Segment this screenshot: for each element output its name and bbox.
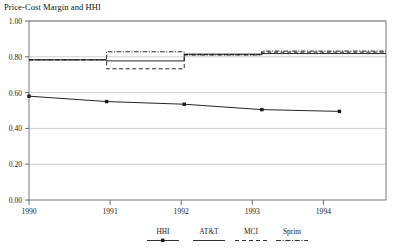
chart-legend: HHI AT&T MCI Sprint	[147, 227, 308, 242]
x-axis-tick-labels: 1990 1991 1992 1993 1994	[21, 207, 331, 216]
x-tick-label: 1993	[245, 207, 260, 216]
legend-label-atnt: AT&T	[199, 227, 219, 236]
x-tick-label: 1992	[174, 207, 189, 216]
plot-frame	[29, 21, 386, 200]
data-point-marker	[260, 108, 263, 111]
y-tick-label: 1.00	[9, 17, 22, 26]
data-point-marker	[105, 100, 108, 103]
y-tick-label: 0.80	[9, 53, 22, 62]
y-tick-label: 0.40	[9, 124, 22, 133]
grid-lines	[29, 21, 386, 164]
y-tick-label: 0.00	[9, 196, 22, 205]
series-line	[29, 51, 386, 60]
data-series-layer	[27, 51, 386, 113]
legend-swatch-hhi	[147, 239, 179, 242]
legend-label-hhi: HHI	[156, 227, 170, 236]
chart-figure: Price-Cost Margin and HHI 1.00 0.80	[0, 0, 400, 248]
y-axis-tick-labels: 1.00 0.80 0.60 0.40 0.20 0.00	[9, 17, 22, 205]
y-tick-label: 0.60	[9, 89, 22, 98]
x-tick-label: 1994	[316, 207, 331, 216]
y-tick-label: 0.20	[9, 160, 22, 169]
data-point-marker	[183, 103, 186, 106]
data-point-marker	[27, 94, 30, 97]
y-axis-ticks	[25, 21, 29, 200]
x-tick-label: 1990	[21, 207, 36, 216]
series-sprint	[29, 51, 386, 60]
x-tick-label: 1991	[103, 207, 118, 216]
data-point-marker	[338, 110, 341, 113]
legend-label-mci: MCI	[244, 227, 259, 236]
series-hhi	[27, 94, 341, 113]
chart-plot-area: 1.00 0.80 0.60 0.40 0.20 0.00 1990 1991 …	[0, 0, 400, 248]
legend-label-sprint: Sprint	[283, 227, 302, 236]
x-axis-ticks	[29, 200, 323, 205]
